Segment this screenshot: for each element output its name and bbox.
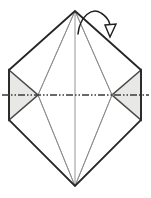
fold-direction-arrow-curve bbox=[78, 11, 110, 34]
fold-direction-arrowhead bbox=[105, 24, 116, 37]
origami-diagram bbox=[0, 0, 151, 198]
origami-diagram-canvas bbox=[0, 0, 151, 198]
